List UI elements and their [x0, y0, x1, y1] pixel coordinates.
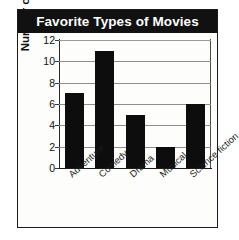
y-tick-label: 8	[37, 78, 55, 88]
x-axis-tick-labels: AdventureComedyDramaMusicalScience ficti…	[59, 169, 219, 229]
gridline	[59, 61, 211, 62]
y-tick-label: 2	[37, 142, 55, 152]
y-tick-label: 4	[37, 120, 55, 130]
y-tick-label: 6	[37, 99, 55, 109]
gridline	[59, 40, 211, 41]
y-axis-title: Number of students	[18, 0, 32, 58]
y-tick-mark	[55, 83, 59, 84]
y-tick-mark	[55, 104, 59, 105]
y-tick-mark	[55, 40, 59, 41]
y-tick-label: 10	[37, 56, 55, 66]
y-tick-mark	[55, 125, 59, 126]
y-axis-tick-labels: 024681012	[34, 40, 55, 168]
y-tick-mark	[55, 147, 59, 148]
gridline	[59, 83, 211, 84]
plot-area	[59, 40, 211, 168]
chart-title-banner: Favorite Types of Movies	[18, 10, 217, 33]
chart-title: Favorite Types of Movies	[36, 14, 199, 29]
y-tick-mark	[55, 61, 59, 62]
chart-figure: Favorite Types of Movies Number of stude…	[0, 0, 231, 240]
y-tick-label: 0	[37, 163, 55, 173]
y-tick-label: 12	[37, 35, 55, 45]
